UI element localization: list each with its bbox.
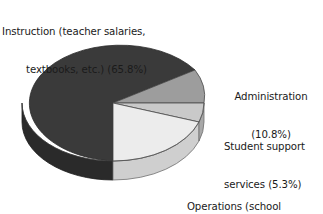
slice-label-instruction-line2: textbooks, etc.) (65.8%) bbox=[2, 64, 147, 77]
slice-label-instruction: Instruction (teacher salaries, textbooks… bbox=[2, 1, 147, 102]
slice-label-student-support-line1: Student support bbox=[224, 141, 323, 154]
slice-label-administration-line1: Administration bbox=[219, 91, 323, 104]
pie-chart-figure: Instruction (teacher salaries, textbooks… bbox=[0, 0, 323, 214]
slice-label-operations: Operations (school maintenance, food, et… bbox=[144, 176, 323, 214]
slice-label-instruction-line1: Instruction (teacher salaries, bbox=[2, 26, 147, 39]
slice-label-operations-line1: Operations (school bbox=[144, 201, 323, 214]
